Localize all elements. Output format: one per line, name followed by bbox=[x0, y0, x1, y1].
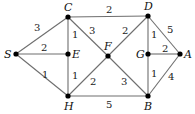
node-label-e: E bbox=[71, 48, 80, 61]
node-a bbox=[177, 51, 182, 56]
node-label-f: F bbox=[103, 40, 112, 53]
edge-weight-s-c: 3 bbox=[34, 22, 40, 33]
node-s bbox=[13, 51, 18, 56]
edge-weight-d-a: 5 bbox=[167, 24, 173, 35]
node-label-b: B bbox=[143, 100, 152, 113]
edge-weight-e-h: 1 bbox=[72, 70, 78, 81]
edge-weight-c-e: 1 bbox=[72, 29, 78, 40]
node-label-g: G bbox=[136, 48, 145, 61]
edge-weight-c-d: 2 bbox=[106, 4, 112, 15]
node-h bbox=[65, 93, 70, 98]
edge-weight-f-b: 3 bbox=[121, 76, 127, 87]
node-label-s: S bbox=[4, 48, 12, 61]
edge-weight-f-h: 2 bbox=[90, 76, 96, 87]
edge-weight-g-b: 1 bbox=[151, 68, 157, 79]
weighted-graph-diagram: 3211123223515214 SCEHFDGAB bbox=[0, 0, 195, 114]
edge-c-d bbox=[68, 16, 148, 17]
edges-layer bbox=[16, 16, 180, 96]
edge-weight-g-a: 2 bbox=[162, 43, 168, 54]
edge-weight-s-h: 1 bbox=[42, 69, 48, 80]
edge-weight-s-e: 2 bbox=[41, 42, 47, 53]
edge-weight-h-b: 5 bbox=[106, 99, 112, 110]
edge-weight-d-g: 1 bbox=[151, 29, 157, 40]
node-b bbox=[145, 93, 150, 98]
edge-weight-c-f: 3 bbox=[89, 25, 95, 36]
edge-f-b bbox=[108, 56, 148, 96]
node-d bbox=[145, 13, 150, 18]
node-label-d: D bbox=[143, 0, 153, 13]
edge-weights-layer: 3211123223515214 bbox=[34, 4, 174, 110]
node-c bbox=[65, 14, 70, 19]
node-f bbox=[105, 53, 110, 58]
edge-weight-a-b: 4 bbox=[168, 71, 174, 82]
node-e bbox=[65, 51, 70, 56]
node-label-c: C bbox=[64, 1, 73, 14]
node-label-h: H bbox=[63, 100, 74, 113]
node-g bbox=[145, 51, 150, 56]
edge-weight-d-f: 2 bbox=[122, 25, 128, 36]
node-label-a: A bbox=[183, 48, 192, 61]
